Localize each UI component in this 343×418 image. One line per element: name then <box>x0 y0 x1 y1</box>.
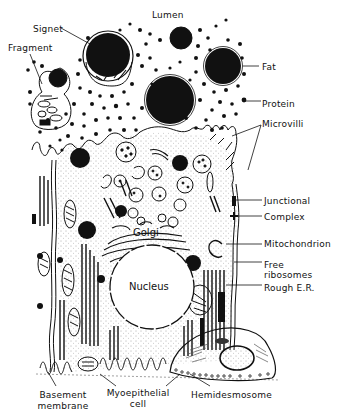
label-microvilli: Microvilli <box>262 119 304 129</box>
label-basement-membrane-line1: Basement <box>36 390 90 400</box>
label-basement-membrane-line2: membrane <box>36 401 90 411</box>
label-lumen: Lumen <box>152 10 184 20</box>
label-golgi: Golgi <box>133 227 159 238</box>
label-protein: Protein <box>262 99 295 109</box>
label-free-ribosomes-line1: Free <box>264 260 284 270</box>
label-complex: Complex <box>264 212 305 222</box>
label-junctional: Junctional <box>264 196 310 206</box>
cell-diagram: Lumen Signet Fragment Fat Protein Microv… <box>0 0 343 418</box>
label-rough-er: Rough E.R. <box>264 283 315 293</box>
label-fragment: Fragment <box>8 43 53 53</box>
cell-illustration <box>0 0 343 418</box>
hemidesmosomes <box>175 369 269 377</box>
basement-membrane <box>36 374 280 380</box>
lateral-membrane-left-2 <box>53 160 56 372</box>
label-myoepithelial-cell-line1: Myoepithelial <box>104 388 172 398</box>
label-hemidesmosome: Hemidesmosome <box>191 390 272 400</box>
label-mitochondrion: Mitochondrion <box>264 239 331 249</box>
fat-droplets <box>83 27 243 126</box>
label-signet: Signet <box>33 24 63 34</box>
junctional-complex <box>232 196 236 206</box>
label-myoepithelial-cell-line2: cell <box>104 399 172 409</box>
label-free-ribosomes-line2: ribosomes <box>264 270 312 280</box>
cytoplasmic-fragment <box>31 68 71 129</box>
label-nucleus: Nucleus <box>129 281 169 292</box>
myoepithelial-nucleus <box>220 346 254 370</box>
label-fat: Fat <box>262 62 276 72</box>
